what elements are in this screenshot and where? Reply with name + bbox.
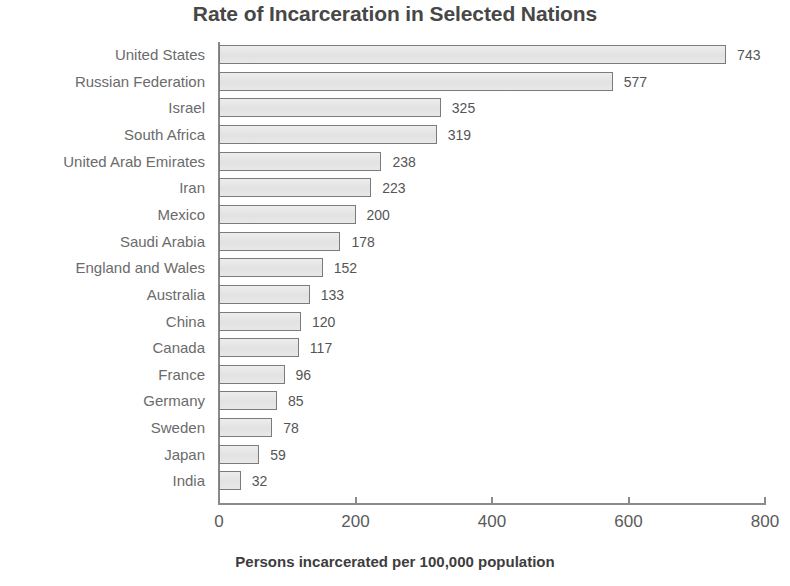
bar-value-label: 743 <box>737 46 760 64</box>
bar-value-label: 133 <box>321 286 344 304</box>
bar <box>219 45 726 64</box>
bar-value-label: 32 <box>252 472 268 490</box>
category-label: United Arab Emirates <box>0 152 205 171</box>
category-label: China <box>0 312 205 331</box>
bar <box>219 232 340 251</box>
chart-title: Rate of Incarceration in Selected Nation… <box>0 2 790 26</box>
x-tick-label: 800 <box>751 512 779 532</box>
bar-row: England and Wales152 <box>0 257 790 284</box>
x-axis-caption: Persons incarcerated per 100,000 populat… <box>0 553 790 570</box>
category-label: Mexico <box>0 205 205 224</box>
category-label: Russian Federation <box>0 72 205 91</box>
bar-row: Sweden78 <box>0 417 790 444</box>
bar-row: United Arab Emirates238 <box>0 151 790 178</box>
bar-value-label: 178 <box>351 233 374 251</box>
category-label: Israel <box>0 98 205 117</box>
bar <box>219 338 299 357</box>
bar-value-label: 238 <box>392 153 415 171</box>
bar <box>219 418 272 437</box>
category-label: England and Wales <box>0 258 205 277</box>
bar-row: Canada117 <box>0 337 790 364</box>
bar-value-label: 200 <box>367 206 390 224</box>
bar-value-label: 85 <box>288 392 304 410</box>
x-tick-label: 400 <box>478 512 506 532</box>
bar <box>219 72 613 91</box>
chart-figure: Rate of Incarceration in Selected Nation… <box>0 0 790 586</box>
bar <box>219 125 437 144</box>
category-label: Canada <box>0 338 205 357</box>
bar-row: Saudi Arabia178 <box>0 231 790 258</box>
category-label: Germany <box>0 391 205 410</box>
bar <box>219 205 356 224</box>
bar-row: France96 <box>0 364 790 391</box>
category-label: Japan <box>0 445 205 464</box>
bar-row: Mexico200 <box>0 204 790 231</box>
x-axis-right-cap <box>764 497 766 505</box>
bar <box>219 285 310 304</box>
bar <box>219 98 441 117</box>
x-tick-mark <box>355 497 357 505</box>
category-label: United States <box>0 45 205 64</box>
bar-row: Japan59 <box>0 444 790 471</box>
bar-value-label: 577 <box>624 73 647 91</box>
bar-row: Germany85 <box>0 390 790 417</box>
bar-row: United States743 <box>0 44 790 71</box>
x-tick-mark <box>628 497 630 505</box>
category-label: Australia <box>0 285 205 304</box>
bar-row: China120 <box>0 311 790 338</box>
bar <box>219 312 301 331</box>
category-label: India <box>0 471 205 490</box>
x-axis-left-cap <box>218 497 220 505</box>
bar-row: Israel325 <box>0 97 790 124</box>
bar-value-label: 120 <box>312 313 335 331</box>
category-label: Iran <box>0 178 205 197</box>
bar-value-label: 223 <box>382 179 405 197</box>
bar-value-label: 78 <box>283 419 299 437</box>
bar <box>219 445 259 464</box>
x-tick-label: 600 <box>614 512 642 532</box>
x-tick-label: 0 <box>214 512 223 532</box>
bar <box>219 178 371 197</box>
bar-value-label: 59 <box>270 446 286 464</box>
bar <box>219 471 241 490</box>
bar-row: Australia133 <box>0 284 790 311</box>
bar <box>219 258 323 277</box>
bar-value-label: 96 <box>296 366 312 384</box>
bar-row: Russian Federation577 <box>0 71 790 98</box>
bar-row: India32 <box>0 470 790 497</box>
category-label: Saudi Arabia <box>0 232 205 251</box>
category-label: Sweden <box>0 418 205 437</box>
bar-value-label: 325 <box>452 99 475 117</box>
bar-value-label: 319 <box>448 126 471 144</box>
category-label: France <box>0 365 205 384</box>
bar-value-label: 117 <box>310 339 332 357</box>
bar <box>219 391 277 410</box>
bar-row: South Africa319 <box>0 124 790 151</box>
x-tick-mark <box>491 497 493 505</box>
bar-value-label: 152 <box>334 259 357 277</box>
bar <box>219 365 285 384</box>
category-label: South Africa <box>0 125 205 144</box>
bar-row: Iran223 <box>0 177 790 204</box>
bar <box>219 152 381 171</box>
x-tick-label: 200 <box>341 512 369 532</box>
